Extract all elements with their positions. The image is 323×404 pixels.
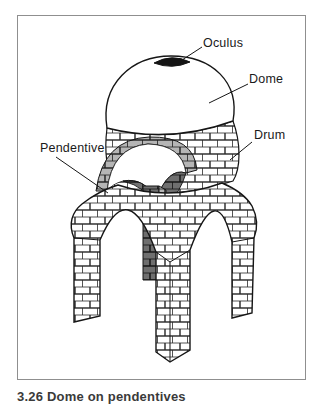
label-pendentive: Pendentive: [40, 142, 105, 155]
label-drum: Drum: [254, 129, 285, 142]
label-oculus: Oculus: [203, 37, 243, 50]
label-dome: Dome: [249, 73, 283, 86]
figure-caption: 3.26 Dome on pendentives: [17, 389, 306, 404]
